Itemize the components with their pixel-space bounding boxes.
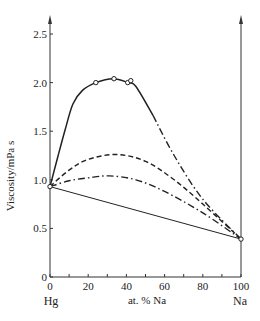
x-left-endpoint-label: Hg	[44, 294, 59, 308]
data-point-marker	[129, 78, 133, 82]
y-tick-label: 2.0	[33, 77, 47, 89]
x-axis-label: at. % Na	[128, 294, 166, 306]
x-tick-label: 80	[197, 280, 209, 292]
axes: 02040608010000.51.01.52.02.5	[33, 15, 250, 292]
curves	[50, 79, 241, 239]
y-axis-arrow-icon	[48, 15, 52, 24]
data-point-marker	[112, 77, 116, 81]
x-tick-label: 0	[47, 280, 53, 292]
data-point-marker	[94, 80, 98, 84]
series-3-line	[50, 176, 241, 239]
y-tick-label: 1.0	[33, 174, 47, 186]
y-tick-label: 0.5	[33, 222, 47, 234]
x-tick-label: 20	[83, 280, 95, 292]
x-right-endpoint-label: Na	[233, 294, 248, 308]
data-point-marker	[48, 184, 52, 188]
x-tick-label: 100	[233, 280, 250, 292]
x-tick-label: 40	[121, 280, 133, 292]
viscosity-chart: 02040608010000.51.01.52.02.5 Viscosity/m…	[0, 0, 260, 321]
y-axis-label: Viscosity/mPa s	[4, 141, 16, 212]
series-1-line	[153, 116, 241, 239]
series-2-line	[50, 155, 241, 240]
x-tick-label: 60	[159, 280, 171, 292]
data-point-marker	[239, 237, 243, 241]
y-tick-label: 0	[42, 271, 48, 283]
series-4-line	[50, 187, 241, 239]
y-tick-label: 2.5	[33, 28, 47, 40]
right-axis-arrow-icon	[239, 15, 243, 24]
series-0-line	[50, 79, 153, 187]
y-tick-label: 1.5	[33, 125, 47, 137]
